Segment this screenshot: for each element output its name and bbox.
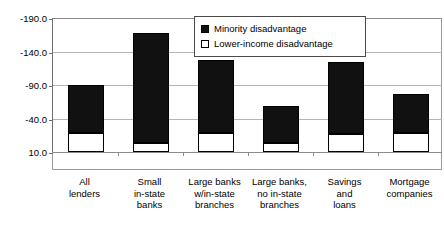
category-label-line: in-state — [117, 188, 182, 200]
y-axis-tick-label: -190.0 — [20, 14, 47, 24]
x-axis-category-label: Smallin-statebanks — [117, 176, 182, 211]
bar-segment-lower-income[interactable] — [198, 133, 234, 152]
x-axis-category-labels: AlllendersSmallin-statebanksLarge banksw… — [52, 176, 442, 232]
hollow-square-icon — [201, 40, 209, 48]
bar-group[interactable] — [68, 85, 104, 152]
category-label-line: Large banks, — [247, 176, 312, 188]
category-label-line: All — [52, 176, 117, 188]
category-label-line: Mortgage — [377, 176, 442, 188]
y-axis-tick-label: 10.0 — [29, 148, 48, 158]
x-axis-category-label: Mortgagecompanies — [377, 176, 442, 199]
category-label-line: Large banks — [182, 176, 247, 188]
bar-segment-lower-income[interactable] — [393, 133, 429, 152]
bar-segment-lower-income[interactable] — [68, 133, 104, 152]
legend-item-minority: Minority disadvantage — [201, 21, 359, 36]
legend-item-lower-income: Lower-income disadvantage — [201, 36, 359, 51]
bar-group[interactable] — [328, 62, 364, 152]
x-axis-minor-tick — [313, 152, 314, 156]
x-axis-minor-tick — [183, 152, 184, 156]
category-label-line: banks — [117, 199, 182, 211]
bar-segment-minority[interactable] — [68, 85, 104, 133]
category-label-line: and — [312, 188, 377, 200]
filled-square-icon — [201, 25, 209, 33]
bar-segment-lower-income[interactable] — [133, 143, 169, 152]
x-axis-minor-tick — [248, 152, 249, 156]
x-axis-category-label: Large banks,no in-statebranches — [247, 176, 312, 211]
bar-segment-lower-income[interactable] — [328, 134, 364, 152]
category-label-line: branches — [247, 199, 312, 211]
category-label-line: lenders — [52, 188, 117, 200]
category-label-line: branches — [182, 199, 247, 211]
x-axis-minor-tick — [118, 152, 119, 156]
bar-group[interactable] — [133, 33, 169, 152]
chart-legend: Minority disadvantage Lower-income disad… — [194, 16, 366, 57]
bar-group[interactable] — [198, 60, 234, 152]
bar-segment-minority[interactable] — [328, 62, 364, 134]
bar-segment-minority[interactable] — [133, 33, 169, 144]
y-axis-tick-label: -40.0 — [25, 115, 47, 125]
x-axis-category-label: Alllenders — [52, 176, 117, 199]
bar-group[interactable] — [263, 106, 299, 152]
category-label-line: Savings — [312, 176, 377, 188]
bar-segment-lower-income[interactable] — [263, 143, 299, 152]
category-label-line: w/in-state — [182, 188, 247, 200]
category-label-line: no in-state — [247, 188, 312, 200]
x-axis-category-label: Savingsandloans — [312, 176, 377, 211]
category-label-line: Small — [117, 176, 182, 188]
y-axis-tick-label: -140.0 — [20, 48, 47, 58]
bar-segment-minority[interactable] — [198, 60, 234, 134]
x-axis-category-label: Large banksw/in-statebranches — [182, 176, 247, 211]
y-axis-tick — [49, 153, 53, 154]
bar-chart: -190.0-140.0-90.0-40.010.0 Minority disa… — [0, 0, 444, 233]
category-label-line: companies — [377, 188, 442, 200]
y-axis-tick-label: -90.0 — [25, 81, 47, 91]
legend-label-lower-income: Lower-income disadvantage — [214, 39, 333, 49]
x-axis-minor-tick — [378, 152, 379, 156]
category-label-line: loans — [312, 199, 377, 211]
legend-label-minority: Minority disadvantage — [214, 24, 306, 34]
bar-group[interactable] — [393, 94, 429, 152]
bar-segment-minority[interactable] — [263, 106, 299, 143]
bar-segment-minority[interactable] — [393, 94, 429, 134]
